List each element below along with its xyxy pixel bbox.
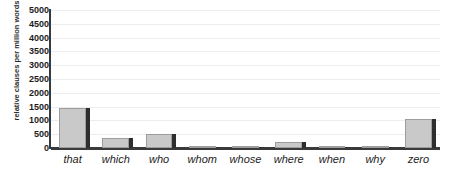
x-axis-tick-label: zero bbox=[397, 153, 440, 165]
bar-slot bbox=[362, 10, 389, 148]
bar-shadow bbox=[129, 138, 133, 148]
y-axis-tick-label: 2500 bbox=[12, 75, 49, 84]
y-axis-tick-label: 4500 bbox=[12, 19, 49, 28]
bar-slot bbox=[189, 10, 216, 148]
bar[interactable] bbox=[146, 134, 173, 148]
bar[interactable] bbox=[102, 138, 129, 148]
x-axis-tick-label: why bbox=[354, 153, 397, 165]
bar-slot bbox=[59, 10, 86, 148]
bar-series bbox=[51, 10, 440, 148]
bar-chart: relative clauses per million words 05001… bbox=[0, 0, 450, 183]
bar[interactable] bbox=[275, 142, 302, 148]
x-axis-tick-label: who bbox=[137, 153, 180, 165]
bar-shadow bbox=[86, 108, 90, 148]
bar-shadow bbox=[172, 134, 176, 148]
bar-shadow bbox=[389, 147, 393, 148]
y-axis-tick-label: 2000 bbox=[12, 88, 49, 97]
x-axis-tick-label: whose bbox=[224, 153, 267, 165]
bar-shadow bbox=[302, 142, 306, 148]
bar[interactable] bbox=[405, 119, 432, 148]
bar[interactable] bbox=[189, 146, 216, 148]
bar[interactable] bbox=[59, 108, 86, 148]
y-axis-tick-label: 1000 bbox=[12, 116, 49, 125]
bar-slot bbox=[275, 10, 302, 148]
y-axis-tick-labels: 0500100015002000250030003500400045005000 bbox=[12, 0, 49, 183]
y-axis-tick-label: 3000 bbox=[12, 61, 49, 70]
bar-shadow bbox=[432, 119, 436, 148]
bar-slot bbox=[232, 10, 259, 148]
bar-slot bbox=[102, 10, 129, 148]
x-axis-tick-label: when bbox=[310, 153, 353, 165]
y-axis-tick-label: 500 bbox=[12, 130, 49, 139]
bar-shadow bbox=[216, 147, 220, 148]
y-axis-tick-label: 3500 bbox=[12, 47, 49, 56]
bar[interactable] bbox=[232, 146, 259, 148]
y-axis-tick-label: 4000 bbox=[12, 33, 49, 42]
x-axis-tick-label: that bbox=[51, 153, 94, 165]
bar[interactable] bbox=[319, 146, 346, 148]
x-axis-tick-label: whom bbox=[181, 153, 224, 165]
y-axis-tick-label: 0 bbox=[12, 144, 49, 153]
bar-slot bbox=[319, 10, 346, 148]
bar-slot bbox=[405, 10, 432, 148]
bar-shadow bbox=[345, 147, 349, 148]
y-axis-tick-label: 1500 bbox=[12, 102, 49, 111]
bar-shadow bbox=[259, 147, 263, 148]
bar[interactable] bbox=[362, 146, 389, 148]
x-axis-tick-label: where bbox=[267, 153, 310, 165]
y-axis-tick-label: 5000 bbox=[12, 6, 49, 15]
bar-slot bbox=[146, 10, 173, 148]
x-axis-tick-label: which bbox=[94, 153, 137, 165]
x-axis-tick-labels: thatwhichwhowhomwhosewherewhenwhyzero bbox=[51, 153, 440, 178]
